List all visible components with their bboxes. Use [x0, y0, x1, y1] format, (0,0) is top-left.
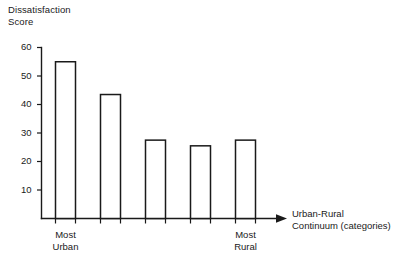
x-axis-title-line2: Continuum (categories): [292, 220, 391, 231]
x-axis-title: Urban-RuralContinuum (categories): [292, 208, 391, 232]
category-annotation-line1: Most: [235, 229, 256, 240]
bar: [236, 140, 256, 218]
category-annotation: MostRural: [206, 229, 286, 253]
x-axis-title-line1: Urban-Rural: [292, 208, 344, 219]
bar: [146, 140, 166, 218]
bar: [191, 146, 211, 219]
category-annotation: MostUrban: [26, 229, 106, 253]
bar: [101, 95, 121, 219]
category-annotation-line1: Most: [55, 229, 76, 240]
category-annotation-line2: Urban: [53, 241, 79, 252]
bar: [56, 62, 76, 219]
category-annotation-line2: Rural: [234, 241, 257, 252]
chart-figure: DissatisfactionScore 102030405060 MostUr…: [0, 0, 403, 260]
bar-series: [56, 62, 256, 219]
x-axis-arrow-icon: [276, 214, 287, 222]
